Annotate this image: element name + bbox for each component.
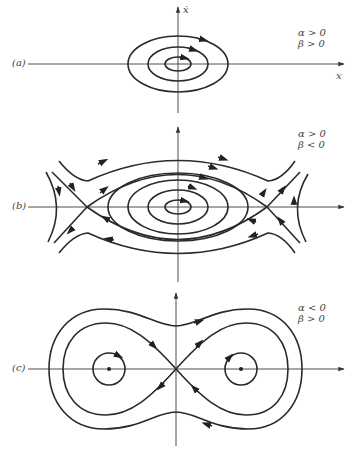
condition-beta-c: β > 0 bbox=[298, 313, 326, 324]
y-axis-label-a: ẋ bbox=[183, 4, 189, 15]
condition-alpha-a: α > 0 bbox=[298, 27, 326, 38]
panel-label-c: (c) bbox=[12, 362, 25, 373]
panel-label-b: (b) bbox=[12, 200, 26, 211]
center-point-right bbox=[239, 367, 243, 371]
conditions-c: α < 0 β > 0 bbox=[298, 302, 326, 324]
condition-beta-a: β > 0 bbox=[298, 38, 326, 49]
flow-arrow-icon bbox=[227, 357, 230, 360]
conditions-b: α > 0 β < 0 bbox=[298, 128, 326, 150]
flow-arrow-icon bbox=[198, 39, 204, 41]
flow-arrow-icon bbox=[251, 220, 256, 222]
separatrix-ext bbox=[52, 172, 87, 207]
flow-arrow-icon bbox=[198, 176, 204, 178]
flow-arrow-icon bbox=[180, 200, 185, 201]
panel-a bbox=[28, 7, 344, 113]
flow-arrow-icon bbox=[70, 183, 73, 188]
separatrix-ext bbox=[267, 207, 300, 243]
phase-portrait-figure bbox=[0, 0, 357, 457]
separatrix-ext bbox=[54, 207, 87, 243]
panel-b bbox=[28, 127, 344, 282]
flow-arrow-icon bbox=[262, 192, 264, 195]
condition-alpha-c: α < 0 bbox=[298, 302, 326, 313]
condition-beta-b: β < 0 bbox=[298, 139, 326, 150]
flow-arrow-icon bbox=[218, 157, 224, 159]
flow-arrow-icon bbox=[206, 424, 212, 426]
flow-arrow-icon bbox=[70, 228, 73, 231]
flow-arrow-icon bbox=[188, 186, 193, 188]
hyperbola-right-b bbox=[297, 174, 308, 242]
outer-top-b bbox=[59, 161, 295, 182]
outer-bottom-b bbox=[59, 233, 295, 254]
condition-alpha-b: α > 0 bbox=[298, 128, 326, 139]
flow-arrow-icon bbox=[100, 189, 105, 193]
flow-arrow-icon bbox=[252, 234, 258, 236]
x-axis-label-a: x bbox=[336, 70, 342, 81]
flow-arrow-icon bbox=[108, 239, 114, 240]
panel-label-a: (a) bbox=[12, 57, 26, 68]
panel-c bbox=[28, 293, 344, 446]
flow-arrow-icon bbox=[180, 57, 185, 58]
flow-arrow-icon bbox=[98, 161, 104, 164]
flow-arrow-icon bbox=[188, 48, 194, 50]
conditions-a: α > 0 β > 0 bbox=[298, 27, 326, 49]
flow-arrow-icon bbox=[58, 186, 59, 192]
flow-arrow-icon bbox=[115, 354, 119, 356]
flow-arrow-icon bbox=[208, 166, 214, 168]
center-point-left bbox=[107, 367, 111, 371]
